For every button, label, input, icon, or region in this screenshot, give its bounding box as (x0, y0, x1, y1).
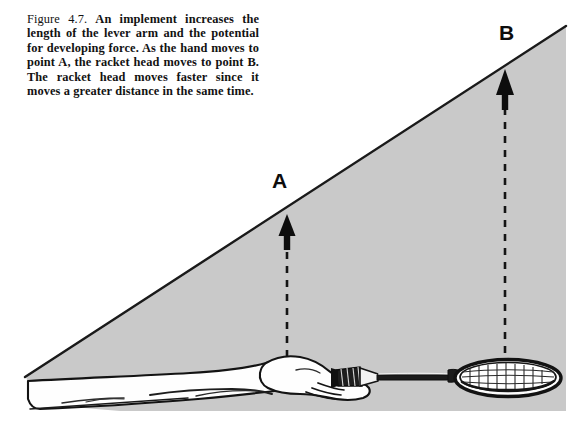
figure-number: Figure 4.7. (27, 12, 87, 26)
figure-container: Figure 4.7. An implement increases the l… (0, 0, 582, 437)
figure-caption: Figure 4.7. An implement increases the l… (27, 12, 259, 98)
point-label-b: B (499, 22, 514, 43)
point-label-a: A (272, 170, 287, 191)
racket-shaft (377, 375, 452, 380)
